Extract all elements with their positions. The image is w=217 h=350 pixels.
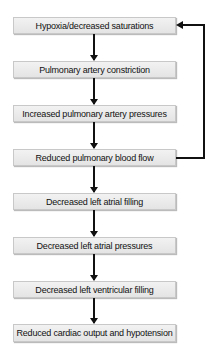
node-decreased-la-pressures: Decreased left atrial pressures: [13, 237, 176, 254]
node-reduced-cardiac-output: Reduced cardiac output and hypotension: [13, 324, 176, 342]
node-decreased-la-filling: Decreased left atrial filling: [13, 193, 176, 210]
node-decreased-lv-filling: Decreased left ventricular filling: [13, 281, 176, 298]
feedback-line-up: [203, 24, 205, 159]
feedback-line-in: [182, 24, 205, 26]
arrow-1-2: [93, 34, 95, 60]
arrow-5-6: [93, 210, 95, 236]
feedback-arrowhead-icon: [176, 21, 183, 29]
node-pulmonary-constriction: Pulmonary artery constriction: [13, 61, 176, 78]
node-hypoxia: Hypoxia/decreased saturations: [13, 17, 176, 34]
arrow-3-4: [93, 122, 95, 148]
arrow-4-5: [93, 166, 95, 192]
node-reduced-pulmonary-flow: Reduced pulmonary blood flow: [13, 149, 176, 166]
feedback-line-out: [176, 157, 205, 159]
arrow-7-8: [93, 298, 95, 323]
arrow-2-3: [93, 78, 95, 104]
node-increased-pa-pressures: Increased pulmonary artery pressures: [13, 105, 176, 122]
arrow-6-7: [93, 254, 95, 280]
